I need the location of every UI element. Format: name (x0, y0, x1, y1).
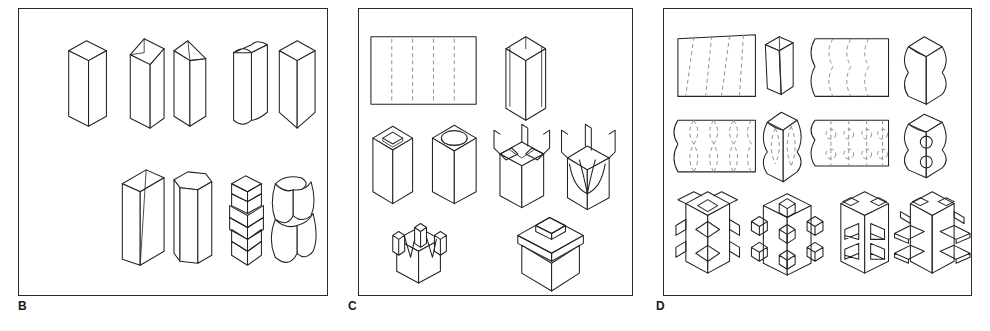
panel-d (663, 8, 972, 296)
shape-net-circle-folds (811, 120, 888, 166)
shape-bevel-top-column (130, 39, 164, 128)
shape-hexagonal-column (174, 172, 212, 263)
shape-column-shelf-tabs (894, 192, 970, 273)
shape-box-splayed-flaps (494, 124, 550, 207)
panel-c-drawing (359, 9, 632, 295)
shape-column-folded-wing-tabs (676, 192, 740, 273)
panel-label-c: C (348, 300, 357, 312)
panel-d-drawing (664, 9, 971, 295)
shape-box-curled-flaps (562, 124, 616, 209)
shape-box-raised-plinth-lid (518, 218, 584, 291)
shape-box-circular-aperture (432, 125, 476, 203)
shape-bulbous-round-column (271, 177, 316, 263)
shape-flat-net-straight-folds (371, 37, 476, 105)
shape-net-slanted-folds (678, 35, 755, 97)
shape-tapered-slab-column (122, 170, 164, 265)
shape-box-diamond-aperture (373, 126, 413, 203)
figure-sheet: B (0, 0, 990, 331)
panel-label-d: D (656, 300, 665, 312)
shape-chevron-stack-column (230, 176, 264, 265)
shape-knife-edge-column (174, 41, 206, 126)
shape-folded-open-box (506, 37, 546, 120)
panel-label-b: B (18, 300, 27, 312)
shape-point-end-column (279, 41, 315, 128)
shape-faceted-diamond-column (763, 112, 801, 182)
panel-c (358, 8, 633, 296)
shape-undulating-column (904, 37, 946, 105)
shape-box-v-notched-prongs (393, 224, 447, 284)
shape-plain-square-column (69, 41, 107, 126)
panel-b (18, 8, 328, 296)
shape-sphere-bump-column (904, 114, 946, 178)
shape-column-cube-studs (751, 194, 823, 275)
shape-net-wavy-folds (811, 39, 888, 97)
panel-b-drawing (19, 9, 327, 295)
shape-concave-flute-column (234, 42, 268, 124)
shape-net-diamond-lattice-folds (674, 120, 755, 172)
shape-tapered-twist-column (765, 37, 793, 95)
shape-column-recessed-panels (841, 192, 889, 273)
